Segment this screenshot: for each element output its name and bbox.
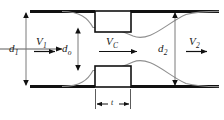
streamline-lower xyxy=(62,61,219,87)
label-v2: V2 xyxy=(189,36,199,47)
label-t: t xyxy=(111,99,113,107)
label-d1-sub: 1 xyxy=(15,48,19,57)
orifice-plate-bottom xyxy=(95,66,131,87)
orifice-flow-diagram: d1 V1 do VC d2 V2 t xyxy=(0,0,224,120)
dimension-arrowhead-d1-bottom xyxy=(23,80,29,86)
label-t-base: t xyxy=(111,98,113,107)
streamline-upper xyxy=(62,11,219,37)
label-do-sub: o xyxy=(68,48,72,57)
dimension-text-gap-t xyxy=(108,99,119,109)
label-d2-base: d xyxy=(158,42,164,54)
label-d1: d1 xyxy=(9,43,18,54)
label-v1-base: V xyxy=(36,35,43,47)
dimension-arrowhead-do-top xyxy=(75,28,81,34)
label-vc-sub: C xyxy=(113,41,118,50)
label-d2: d2 xyxy=(158,43,167,54)
label-d2-sub: 2 xyxy=(164,48,168,57)
label-v1: V1 xyxy=(36,36,46,47)
label-v2-sub: 2 xyxy=(196,41,200,50)
dimension-arrowhead-do-bottom xyxy=(75,65,81,71)
label-do-base: d xyxy=(62,42,68,54)
label-vc-base: V xyxy=(106,35,113,47)
label-v1-sub: 1 xyxy=(43,41,47,50)
label-v2-base: V xyxy=(189,35,196,47)
label-d1-base: d xyxy=(9,42,15,54)
dimension-lines xyxy=(0,12,178,86)
dimension-arrowhead-d1-top xyxy=(23,12,29,18)
label-do: do xyxy=(62,43,71,54)
orifice-plate-top xyxy=(95,11,131,32)
label-vc: VC xyxy=(106,36,118,47)
